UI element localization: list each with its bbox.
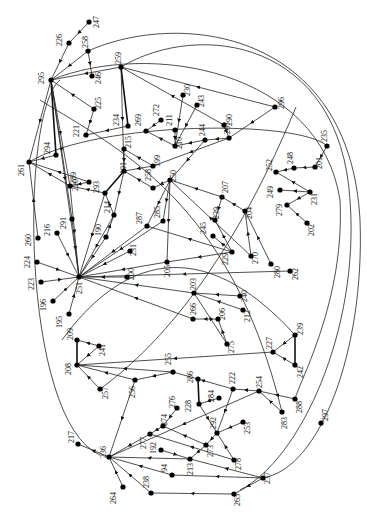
node-label: 256 (128, 386, 137, 398)
node-226 (66, 40, 71, 45)
node-label: 253 (243, 422, 252, 434)
node-label: 258 (144, 169, 153, 181)
node-293 (102, 190, 107, 195)
edge (294, 167, 315, 168)
node-266 (190, 316, 195, 321)
node-label: 209 (66, 328, 75, 340)
edge (79, 277, 194, 293)
node-label: 205 (163, 265, 172, 277)
node-label: 261 (17, 164, 26, 176)
node-label: 234 (112, 114, 121, 126)
node-label: 285 (153, 206, 162, 218)
node-label: 230 (183, 84, 192, 96)
edge (51, 51, 88, 80)
node-label: 250 (169, 170, 178, 182)
node-221 (83, 132, 88, 137)
edge (77, 346, 99, 365)
node-label: 255 (164, 353, 173, 365)
node-205 (164, 259, 169, 264)
node-label: 259 (114, 52, 123, 64)
node-220 (86, 179, 91, 184)
edge (259, 391, 282, 412)
node-label: 291 (59, 217, 68, 229)
node-label: 226 (55, 34, 64, 46)
node-287 (144, 223, 149, 228)
node-249 (277, 187, 282, 192)
node-235 (324, 143, 329, 148)
node-label: 284 (207, 390, 216, 402)
node-261 (26, 159, 31, 164)
edge (86, 126, 128, 135)
node-label: 276 (168, 396, 177, 408)
node-280 (268, 261, 273, 266)
node-label: 196 (39, 299, 48, 311)
node-label: 262 (291, 268, 300, 280)
node-label: 292 (209, 417, 218, 429)
node-label: 213 (186, 463, 195, 475)
edge (173, 372, 233, 389)
edge (153, 138, 229, 166)
node-279 (284, 202, 289, 207)
node-label: 215 (124, 136, 133, 148)
node-label: 227 (265, 337, 274, 349)
node-label: 229 (221, 253, 230, 265)
node-label: 211 (165, 114, 174, 126)
node-label: 208 (64, 363, 73, 375)
edge (273, 352, 295, 365)
node-label: 239 (296, 323, 305, 335)
edge (106, 215, 114, 237)
node-label: 238 (142, 476, 151, 488)
node-label: 279 (275, 204, 284, 216)
edge (77, 340, 99, 346)
node-label: 202 (307, 224, 316, 236)
node-245 (210, 233, 215, 238)
node-213 (187, 456, 192, 461)
node-label: 199 (153, 155, 162, 167)
node-label: 214 (103, 201, 112, 213)
node-258 (150, 185, 155, 190)
node-label: 252 (265, 159, 274, 171)
node-228 (196, 401, 201, 406)
node-label: 192 (149, 442, 158, 454)
node-285 (160, 218, 165, 223)
node-192 (158, 447, 163, 452)
node-label: 244 (198, 124, 207, 136)
node-294 (53, 152, 58, 157)
arc-edge (62, 268, 295, 340)
node-295 (48, 77, 53, 82)
node-label: 239 (212, 207, 221, 219)
node-label: 206 (218, 308, 227, 320)
node-label: 237 (263, 472, 272, 484)
node-label: 243 (197, 95, 206, 107)
node-label: 217 (67, 431, 76, 443)
node-256 (132, 377, 137, 382)
node-238 (148, 490, 153, 495)
node-label: 231 (129, 244, 138, 256)
node-label: 288 (295, 401, 304, 413)
edge (29, 162, 89, 182)
node-label: 241 (98, 344, 107, 356)
node-234 (125, 123, 130, 128)
edge (217, 433, 234, 460)
edge (229, 107, 275, 138)
node-217 (75, 441, 80, 446)
node-252 (273, 169, 278, 174)
node-288 (292, 396, 297, 401)
edge (51, 80, 94, 109)
node-label: 228 (184, 400, 193, 412)
node-label: 191 (119, 162, 128, 174)
arc-edges (29, 33, 360, 490)
node-label: 223 (27, 278, 36, 290)
edge (79, 237, 106, 277)
node-label: 280 (273, 266, 282, 278)
node-label: 273 (206, 445, 215, 457)
edge (287, 192, 310, 205)
node-260 (35, 235, 40, 240)
node-label: 204 (245, 207, 254, 219)
edge (170, 180, 251, 256)
arc-edge (34, 80, 100, 455)
node-label: 248 (286, 152, 295, 164)
node-291 (69, 216, 74, 221)
edge (273, 335, 295, 352)
node-251 (76, 274, 81, 279)
